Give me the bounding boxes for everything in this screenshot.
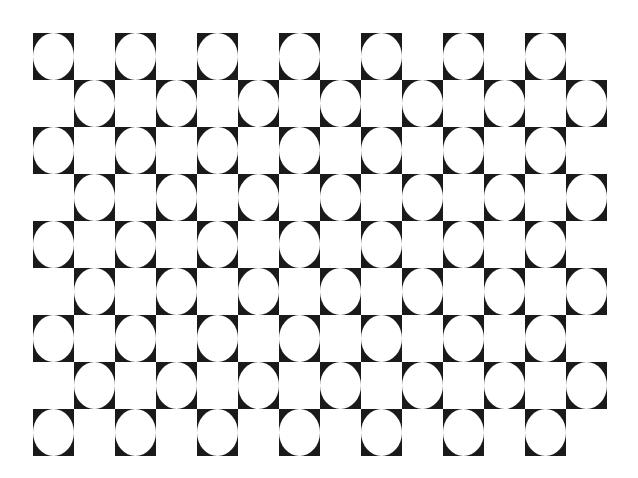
pattern-tile [484,268,525,315]
pattern-tile [279,315,320,362]
tile-white-circle [402,362,443,409]
pattern-tile [361,221,402,268]
tile-white-circle [525,409,566,456]
tile-white-circle [279,33,320,80]
tile-white-circle [443,315,484,362]
tile-white-circle [361,33,402,80]
tile-white-circle [484,80,525,127]
pattern-tile [33,409,74,456]
tile-white-circle [279,221,320,268]
pattern-tile [197,409,238,456]
tile-white-circle [484,268,525,315]
pattern-tile [443,127,484,174]
tile-white-circle [566,174,607,221]
pattern-tile [279,33,320,80]
pattern-tile [320,362,361,409]
pattern-tile [361,409,402,456]
tile-white-circle [566,268,607,315]
pattern-tile [238,362,279,409]
tile-white-circle [115,315,156,362]
tile-white-circle [238,80,279,127]
tile-white-circle [33,33,74,80]
pattern-tile [443,409,484,456]
tile-white-circle [197,127,238,174]
tile-white-circle [443,33,484,80]
pattern-tile [33,315,74,362]
tile-white-circle [33,127,74,174]
pattern-tile [402,362,443,409]
tile-white-circle [33,409,74,456]
tile-white-circle [320,174,361,221]
pattern-tile [197,33,238,80]
pattern-tile [320,80,361,127]
tile-white-circle [115,127,156,174]
tile-white-circle [279,127,320,174]
tile-white-circle [525,315,566,362]
tile-white-circle [156,174,197,221]
pattern-tile [279,221,320,268]
tile-white-circle [279,315,320,362]
tile-white-circle [566,80,607,127]
pattern-tile [443,221,484,268]
tile-white-circle [197,409,238,456]
tile-white-circle [320,362,361,409]
tile-white-circle [443,409,484,456]
pattern-tile [566,362,607,409]
pattern-tile [320,174,361,221]
pattern-tile [402,80,443,127]
tile-white-circle [197,315,238,362]
tile-white-circle [197,33,238,80]
pattern-tile [156,174,197,221]
tile-white-circle [115,33,156,80]
pattern-tile [156,362,197,409]
pattern-tile [525,33,566,80]
pattern-tile [566,174,607,221]
pattern-tile [156,268,197,315]
tile-white-circle [238,268,279,315]
tile-white-circle [156,268,197,315]
tile-white-circle [525,127,566,174]
pattern-tile [361,315,402,362]
tile-white-circle [443,127,484,174]
pattern-tile [320,268,361,315]
pattern-tile [115,33,156,80]
pattern-tile [443,33,484,80]
pattern-tile [566,80,607,127]
pattern-tile [74,268,115,315]
pattern-tile [115,127,156,174]
pattern-tile [525,409,566,456]
tile-white-circle [238,174,279,221]
pattern-tile [443,315,484,362]
tile-white-circle [320,268,361,315]
pattern-tile [525,315,566,362]
pattern-tile [33,127,74,174]
tile-white-circle [156,80,197,127]
pattern-tile [279,127,320,174]
pattern-tile [484,362,525,409]
tile-white-circle [361,127,402,174]
pattern-tile [525,127,566,174]
pattern-tile [33,33,74,80]
pattern-tile [74,174,115,221]
pattern-tile [115,315,156,362]
tile-white-circle [279,409,320,456]
pattern-tile [484,174,525,221]
tile-white-circle [402,174,443,221]
tile-white-circle [361,315,402,362]
tile-white-circle [74,80,115,127]
artwork-canvas [0,0,638,478]
tile-white-circle [361,221,402,268]
tile-white-circle [197,221,238,268]
pattern-tile [484,80,525,127]
tile-white-circle [74,268,115,315]
pattern-tile [402,268,443,315]
pattern-tile [525,221,566,268]
tile-white-circle [566,362,607,409]
pattern-tile [197,315,238,362]
pattern-tile [74,362,115,409]
tile-white-circle [402,80,443,127]
tile-white-circle [156,362,197,409]
tile-white-circle [484,362,525,409]
optical-pattern-graphic [0,0,638,478]
tile-white-circle [361,409,402,456]
